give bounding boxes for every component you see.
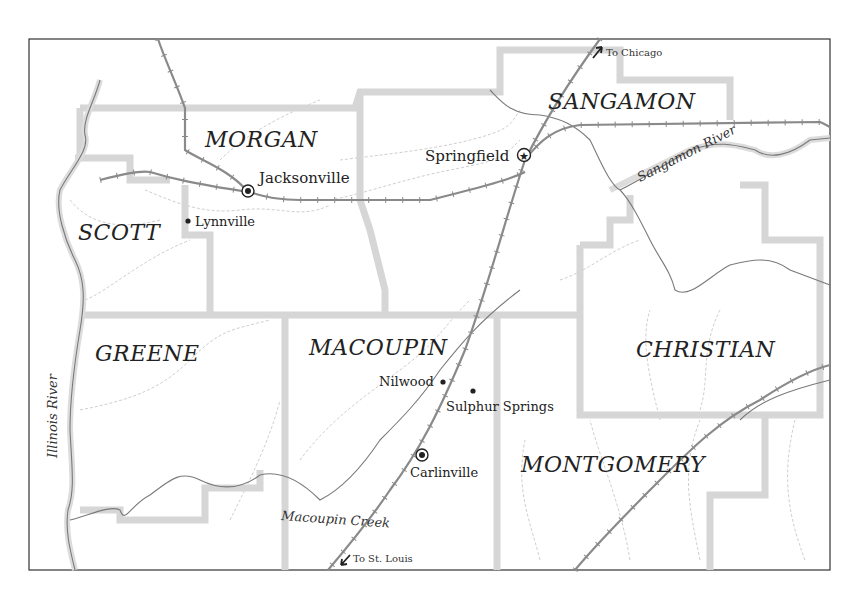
- water-label-illinois-river: Illinois River: [45, 373, 60, 459]
- county-label-morgan: MORGAN: [204, 127, 318, 152]
- town-label: Lynnville: [195, 214, 255, 229]
- county-label-sangamon: SANGAMON: [548, 89, 696, 114]
- town-label: Nilwood: [379, 374, 434, 389]
- map-frame: [29, 39, 830, 570]
- town-label: Carlinville: [410, 465, 478, 480]
- town-dot-icon: [185, 218, 190, 223]
- direction-label: To St. Louis: [353, 553, 413, 564]
- direction-label: To Chicago: [606, 47, 662, 58]
- town-dot-icon: [470, 388, 475, 393]
- town-label: Jacksonville: [257, 169, 350, 187]
- map: MORGAN SANGAMON SCOTT GREENE MACOUPIN CH…: [0, 0, 867, 596]
- town-label: Sulphur Springs: [446, 399, 554, 414]
- svg-text:★: ★: [519, 150, 529, 163]
- county-label-scott: SCOTT: [78, 220, 162, 245]
- county-label-montgomery: MONTGOMERY: [520, 452, 707, 477]
- town-lynnville[interactable]: Lynnville: [185, 214, 255, 229]
- county-label-christian: CHRISTIAN: [636, 337, 776, 362]
- county-label-macoupin: MACOUPIN: [308, 335, 448, 360]
- county-label-greene: GREENE: [95, 341, 200, 366]
- town-dot-icon: [440, 379, 445, 384]
- town-label: Springfield: [425, 147, 510, 165]
